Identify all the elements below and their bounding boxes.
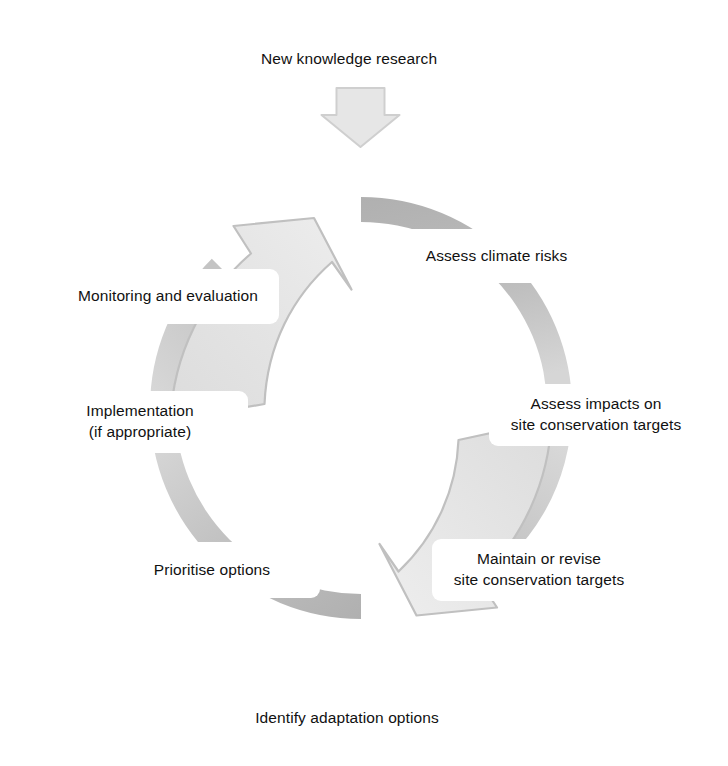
node-label: Monitoring and evaluation [78,286,258,307]
cycle-ring-graphic [0,0,728,766]
node-maintain-or-revise-site-conservation-targets[interactable]: Maintain or revise site conservation tar… [432,539,646,601]
node-monitoring-and-evaluation[interactable]: Monitoring and evaluation [57,269,279,324]
node-label: New knowledge research [261,49,437,70]
node-new-knowledge-research[interactable]: New knowledge research [239,32,459,86]
node-label: Assess climate risks [426,246,568,267]
node-identify-adaptation-options[interactable]: Identify adaptation options [237,691,457,745]
node-label: Assess impacts on site conservation targ… [511,394,682,436]
diagram-canvas: New knowledge research Assess climate ri… [0,0,728,766]
node-label: Implementation (if appropriate) [86,401,193,443]
node-label: Prioritise options [154,560,270,581]
node-assess-impacts-on-site-conservation-targets[interactable]: Assess impacts on site conservation targ… [489,384,703,446]
node-implementation-if-appropriate[interactable]: Implementation (if appropriate) [32,391,248,453]
node-assess-climate-risks[interactable]: Assess climate risks [387,229,606,283]
node-label: Maintain or revise site conservation tar… [454,549,625,591]
node-prioritise-options[interactable]: Prioritise options [104,542,320,598]
node-label: Identify adaptation options [255,708,439,729]
feedback-down-arrow [322,88,400,147]
